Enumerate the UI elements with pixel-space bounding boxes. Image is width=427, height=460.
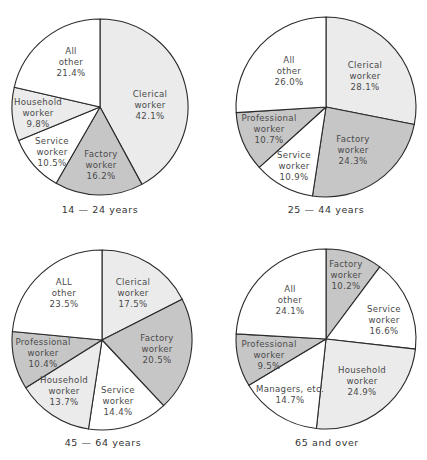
label-factory: Factoryworker16.2% xyxy=(84,149,118,181)
pie-chart-25-44 xyxy=(236,17,416,197)
caption-25-44: 25 — 44 years xyxy=(288,204,365,215)
caption-65-over: 65 and over xyxy=(295,437,359,448)
caption-14-24: 14 — 24 years xyxy=(62,204,139,215)
pie-slice-all-other xyxy=(236,17,326,113)
label-clerical: Clericalworker28.1% xyxy=(348,60,382,92)
label-service: Serviceworker10.9% xyxy=(277,150,311,182)
caption-45-64: 45 — 64 years xyxy=(65,437,142,448)
label-clerical: Clericalworker42.1% xyxy=(133,89,167,121)
label-service: Serviceworker16.6% xyxy=(367,304,401,336)
label-factory: Factoryworker20.5% xyxy=(140,333,174,365)
label-service: Serviceworker14.4% xyxy=(101,385,135,417)
label-service: Serviceworker10.5% xyxy=(35,136,69,168)
label-clerical: Clericalworker17.5% xyxy=(116,277,150,309)
label-factory: Factoryworker24.3% xyxy=(336,134,370,166)
pie-slice-all-other xyxy=(236,249,326,339)
pie-charts-figure: 14 — 24 years Clericalworker42.1% Factor… xyxy=(0,0,427,460)
label-factory: Factoryworker10.2% xyxy=(329,259,363,291)
